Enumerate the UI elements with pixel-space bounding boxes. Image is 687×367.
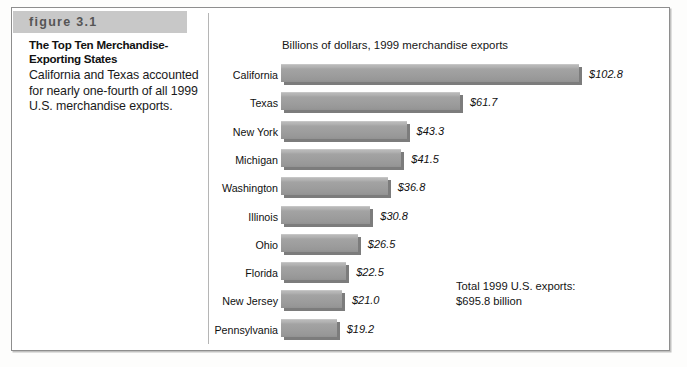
figure-page: figure 3.1 The Top Ten Merchandise-Expor… (0, 0, 687, 367)
bar-shadow (401, 152, 404, 170)
bar-shadow (346, 265, 349, 283)
bar-category-label: Illinois (148, 211, 278, 223)
bar-row: Illinois$30.8 (208, 204, 670, 232)
bar-fill (281, 206, 370, 224)
bar (281, 64, 582, 85)
bar-row: Texas$61.7 (208, 90, 670, 118)
bar-row: Ohio$26.5 (208, 232, 670, 260)
bar-row: California$102.8 (208, 62, 670, 90)
bar-shadow (579, 67, 582, 85)
bar-shadow (460, 95, 463, 113)
bar-shadow (284, 224, 373, 227)
bar-row: New York$43.3 (208, 119, 670, 147)
bar-row: Florida$22.5 (208, 260, 670, 288)
bar-fill (281, 177, 388, 195)
bar-value-label: $19.2 (347, 323, 375, 335)
bar-fill (281, 319, 337, 337)
bar-shadow (284, 195, 391, 198)
bar-category-label: Michigan (148, 154, 278, 166)
bar-value-label: $102.8 (589, 68, 623, 80)
bar-fill (281, 121, 407, 139)
bar-value-label: $41.5 (411, 153, 439, 165)
bar (281, 177, 391, 198)
bar-shadow (284, 252, 361, 255)
bar-category-label: Florida (148, 267, 278, 279)
bar-shadow (284, 167, 404, 170)
bar-category-label: New York (148, 126, 278, 138)
bar-category-label: California (148, 69, 278, 81)
bar-category-label: New Jersey (148, 295, 278, 307)
bar (281, 149, 404, 170)
bar-category-label: Texas (148, 97, 278, 109)
bar-fill (281, 290, 342, 308)
chart-title: Billions of dollars, 1999 merchandise ex… (282, 39, 508, 51)
bar-fill (281, 64, 579, 82)
total-exports-line1: Total 1999 U.S. exports: (456, 279, 575, 294)
bar-row: Washington$36.8 (208, 175, 670, 203)
bar-shadow (284, 337, 340, 340)
bar-fill (281, 149, 401, 167)
bar-row: New Jersey$21.0 (208, 288, 670, 316)
total-exports-line2: $695.8 billion (456, 294, 575, 309)
bar-value-label: $61.7 (470, 96, 498, 108)
bar-shadow (284, 308, 345, 311)
total-exports-annotation: Total 1999 U.S. exports: $695.8 billion (456, 279, 575, 308)
bar-value-label: $43.3 (417, 125, 445, 137)
bar-fill (281, 262, 346, 280)
bar-shadow (370, 209, 373, 227)
bar-fill (281, 92, 460, 110)
bar-value-label: $30.8 (380, 210, 408, 222)
bar-shadow (388, 180, 391, 198)
bar-value-label: $26.5 (368, 238, 396, 250)
bar-shadow (337, 322, 340, 340)
bar-value-label: $21.0 (352, 294, 380, 306)
bar-chart: Billions of dollars, 1999 merchandise ex… (208, 8, 670, 351)
bar-shadow (358, 237, 361, 255)
bar (281, 206, 373, 227)
bar-value-label: $22.5 (356, 266, 384, 278)
bar-row: Pennsylvania$19.2 (208, 317, 670, 345)
bar (281, 92, 463, 113)
bar-shadow (284, 280, 349, 283)
bar-category-label: Washington (148, 182, 278, 194)
bar (281, 319, 340, 340)
figure-number-label: figure 3.1 (29, 15, 98, 29)
bar-shadow (284, 82, 582, 85)
bar (281, 290, 345, 311)
figure-title: The Top Ten Merchandise-Exporting States (29, 38, 205, 65)
bar-shadow (407, 124, 410, 142)
bar-shadow (342, 293, 345, 311)
bar (281, 234, 361, 255)
bar (281, 262, 349, 283)
bar-shadow (284, 110, 463, 113)
bar-category-label: Ohio (148, 239, 278, 251)
bar-row: Michigan$41.5 (208, 147, 670, 175)
bar (281, 121, 410, 142)
bar-value-label: $36.8 (398, 181, 426, 193)
bar-shadow (284, 139, 410, 142)
bar-category-label: Pennsylvania (148, 324, 278, 336)
bar-fill (281, 234, 358, 252)
